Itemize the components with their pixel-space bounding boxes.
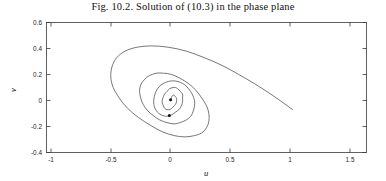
plot-frame xyxy=(47,23,367,153)
y-tick-label: 0.4 xyxy=(33,45,42,52)
y-tick-label: 0.2 xyxy=(33,71,42,78)
trajectory-marker xyxy=(168,114,171,117)
y-tick-label: 0.6 xyxy=(33,19,42,26)
figure-container: Fig. 10.2. Solution of (10.3) in the pha… xyxy=(0,0,386,181)
x-tick-label: -0.5 xyxy=(105,156,116,163)
trajectory-markers xyxy=(168,98,172,117)
y-axis-label: v xyxy=(8,88,18,92)
x-axis-label: u xyxy=(204,168,208,178)
y-tick-label: -0.4 xyxy=(31,149,42,156)
plot-area: -1 -0.5 0 0.5 1 1.5 0.6 0.4 0.2 0 -0.2 -… xyxy=(0,0,386,181)
x-tick-labels: -1 -0.5 0 0.5 1 1.5 xyxy=(48,156,355,163)
equilibrium-point xyxy=(169,98,172,101)
x-tick-label: 0 xyxy=(168,156,172,163)
y-tick-labels: 0.6 0.4 0.2 0 -0.2 -0.4 xyxy=(31,19,42,156)
y-tickmarks xyxy=(47,23,367,153)
y-tick-label: 0 xyxy=(38,97,42,104)
x-tick-label: -1 xyxy=(48,156,54,163)
y-tick-label: -0.2 xyxy=(31,123,42,130)
x-tickmarks xyxy=(51,23,350,153)
x-tick-label: 1.5 xyxy=(346,156,355,163)
trajectory-curve xyxy=(111,46,293,137)
x-tick-label: 0.5 xyxy=(226,156,235,163)
x-tick-label: 1 xyxy=(288,156,292,163)
